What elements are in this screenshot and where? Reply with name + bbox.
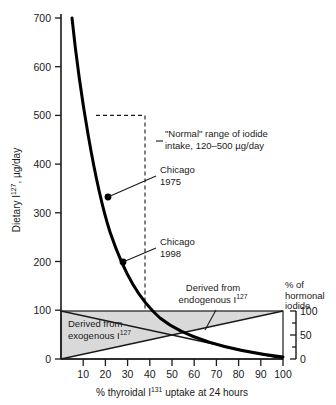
x-tick-10: 10 bbox=[77, 368, 89, 380]
right-title-line1: % of bbox=[285, 279, 304, 290]
chart-svg: 700 600 500 400 300 200 100 0 10 20 30 4… bbox=[0, 0, 336, 405]
dietary-iodide-curve bbox=[72, 18, 283, 357]
right-title-line3: iodide bbox=[285, 300, 310, 311]
endogenous-annotation: Derived from endogenous I127 bbox=[179, 282, 248, 305]
chicago-1975-line1: Chicago bbox=[160, 164, 195, 175]
x-axis-title-post: uptake at 24 hours bbox=[162, 387, 248, 398]
normal-range-line1: "Normal" range of iodide bbox=[165, 128, 268, 139]
y-tick-300: 300 bbox=[33, 207, 51, 219]
right-axis-labels: 100 50 0 bbox=[300, 305, 318, 365]
y-tick-0: 0 bbox=[45, 353, 51, 365]
chicago-1975-annotation: Chicago 1975 bbox=[160, 164, 195, 187]
leader-chicago-1975 bbox=[108, 176, 156, 197]
y-axis-title-tail: , µg/day bbox=[11, 148, 22, 184]
svg-text:Dietary I127, µg/day: Dietary I127, µg/day bbox=[10, 148, 22, 232]
right-title-line2: hormonal bbox=[285, 290, 325, 301]
x-axis-title-pre: % thyroidal I bbox=[96, 387, 151, 398]
x-axis-title-sup: 131 bbox=[151, 386, 163, 393]
x-tick-labels: 10 20 30 40 50 60 70 80 90 100 bbox=[77, 368, 292, 380]
normal-range-line2: intake, 120–500 µg/day bbox=[165, 140, 264, 151]
x-tick-marks bbox=[83, 359, 283, 366]
endogenous-line2-text: endogenous I bbox=[179, 294, 237, 305]
y-tick-400: 400 bbox=[33, 158, 51, 170]
x-axis-title: % thyroidal I131 uptake at 24 hours bbox=[96, 386, 248, 398]
right-tick-50: 50 bbox=[300, 329, 312, 341]
y-axis-title: Dietary I127, µg/day bbox=[10, 148, 22, 232]
right-axis-ticks bbox=[290, 311, 296, 359]
y-tick-marks bbox=[55, 18, 61, 359]
x-tick-40: 40 bbox=[144, 368, 156, 380]
x-tick-20: 20 bbox=[100, 368, 112, 380]
y-tick-100: 100 bbox=[33, 304, 51, 316]
x-tick-60: 60 bbox=[188, 368, 200, 380]
endogenous-line2: endogenous I127 bbox=[179, 293, 248, 305]
x-tick-50: 50 bbox=[166, 368, 178, 380]
chicago-1998-line2: 1998 bbox=[160, 248, 181, 259]
y-axis-title-main: Dietary I bbox=[11, 195, 22, 232]
y-tick-500: 500 bbox=[33, 109, 51, 121]
x-tick-30: 30 bbox=[122, 368, 134, 380]
y-axis-title-sup: 127 bbox=[10, 183, 17, 195]
endogenous-line1: Derived from bbox=[186, 282, 240, 293]
y-tick-700: 700 bbox=[33, 12, 51, 24]
chicago-1975-line2: 1975 bbox=[160, 176, 181, 187]
y-tick-labels: 700 600 500 400 300 200 100 0 bbox=[33, 12, 51, 365]
x-tick-100: 100 bbox=[274, 368, 292, 380]
chicago-1998-line1: Chicago bbox=[160, 236, 195, 247]
exogenous-sup: 127 bbox=[120, 329, 132, 336]
x-tick-90: 90 bbox=[255, 368, 267, 380]
right-tick-0: 0 bbox=[300, 353, 306, 365]
x-tick-80: 80 bbox=[233, 368, 245, 380]
chicago-1998-annotation: Chicago 1998 bbox=[160, 236, 195, 259]
y-tick-600: 600 bbox=[33, 61, 51, 73]
exogenous-line1: Derived from bbox=[68, 318, 122, 329]
leader-chicago-1998 bbox=[123, 248, 156, 262]
exogenous-line2-text: exogenous I bbox=[68, 330, 120, 341]
endogenous-sup: 127 bbox=[236, 293, 248, 300]
x-tick-70: 70 bbox=[211, 368, 223, 380]
right-axis-title: % of hormonal iodide bbox=[285, 279, 325, 311]
normal-range-annotation: "Normal" range of iodide intake, 120–500… bbox=[165, 128, 268, 151]
y-tick-200: 200 bbox=[33, 256, 51, 268]
chart-figure: 700 600 500 400 300 200 100 0 10 20 30 4… bbox=[0, 0, 336, 405]
